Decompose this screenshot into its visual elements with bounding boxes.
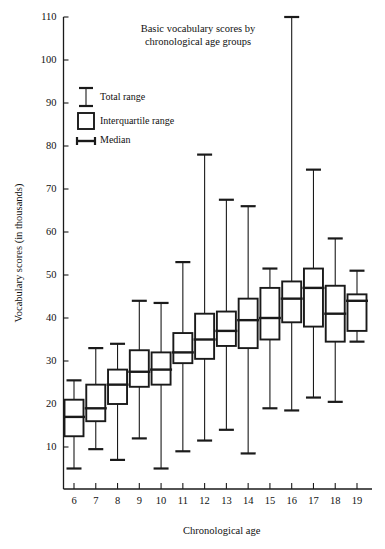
y-axis-tick-label: 100 [41, 54, 57, 65]
x-axis-tick-label: 12 [199, 495, 210, 506]
y-axis-tick-label: 30 [46, 355, 57, 366]
y-axis-title: Vocabulary scores (in thousands) [13, 183, 25, 322]
y-axis-tick-label: 90 [46, 97, 57, 108]
x-axis-tick-label: 8 [115, 495, 120, 506]
chart-title-line-1: Basic vocabulary scores by [141, 23, 256, 34]
y-axis-tick-label: 20 [46, 398, 57, 409]
legend-label-total-range: Total range [100, 91, 146, 102]
box-plot-item [63, 380, 85, 468]
box-plot-item [194, 155, 216, 441]
interquartile-range-icon [78, 113, 94, 129]
x-axis-tick-label: 19 [352, 495, 363, 506]
x-axis-tick-label: 17 [308, 495, 319, 506]
box-plot-item [302, 170, 324, 398]
interquartile-box [173, 333, 192, 363]
x-axis-tick-label: 14 [243, 495, 254, 506]
box-plot-item [281, 17, 303, 410]
box-series [63, 17, 368, 469]
chart-titles: Basic vocabulary scores bychronological … [141, 23, 256, 47]
box-plot-chart: 102030405060708090100110Vocabulary score… [0, 0, 385, 549]
interquartile-box [260, 288, 279, 340]
y-axis-tick-label: 60 [46, 226, 57, 237]
interquartile-box [195, 314, 214, 359]
box-plot-item [107, 344, 129, 460]
interquartile-box [86, 385, 105, 422]
box-plot-item [150, 303, 172, 469]
x-axis-tick-label: 11 [178, 495, 188, 506]
legend-label-interquartile-range: Interquartile range [100, 115, 175, 126]
x-axis-tick-label: 6 [71, 495, 76, 506]
chart-legend: Total rangeInterquartile rangeMedian [77, 88, 175, 145]
x-axis: 678910111213141516171819Chronological ag… [64, 483, 373, 536]
y-axis-tick-label: 40 [46, 312, 57, 323]
x-axis-tick-label: 7 [93, 495, 98, 506]
box-plot-item [259, 269, 281, 409]
interquartile-box [217, 312, 236, 346]
legend-item-total-range: Total range [79, 88, 146, 106]
box-plot-item [172, 262, 194, 451]
legend-label-median: Median [100, 134, 131, 145]
box-plot-item [215, 200, 237, 430]
legend-item-interquartile-range: Interquartile range [78, 113, 175, 129]
y-axis-tick-label: 10 [46, 441, 57, 452]
x-axis-tick-label: 18 [330, 495, 341, 506]
y-axis-tick-label: 70 [46, 183, 57, 194]
interquartile-box [304, 269, 323, 327]
x-axis-tick-label: 13 [221, 495, 232, 506]
interquartile-box [108, 370, 127, 404]
box-plot-item [346, 271, 368, 342]
y-axis-tick-label: 80 [46, 140, 57, 151]
x-axis-tick-label: 16 [286, 495, 297, 506]
interquartile-box [282, 281, 301, 322]
y-axis: 102030405060708090100110Vocabulary score… [13, 11, 69, 489]
x-axis-title: Chronological age [183, 525, 261, 536]
legend-item-median: Median [77, 134, 131, 145]
x-axis-tick-label: 10 [156, 495, 167, 506]
box-plot-item [237, 206, 259, 453]
y-axis-tick-label: 50 [46, 269, 57, 280]
x-axis-tick-label: 15 [265, 495, 276, 506]
chart-title-line-2: chronological age groups [145, 36, 251, 47]
interquartile-box [239, 299, 258, 348]
box-plot-item [128, 301, 150, 439]
box-plot-item [324, 238, 346, 401]
x-axis-tick-label: 9 [137, 495, 142, 506]
box-plot-item [85, 348, 107, 449]
interquartile-box [130, 350, 149, 387]
plot-area: 102030405060708090100110Vocabulary score… [0, 0, 385, 549]
y-axis-tick-label: 110 [41, 11, 56, 22]
